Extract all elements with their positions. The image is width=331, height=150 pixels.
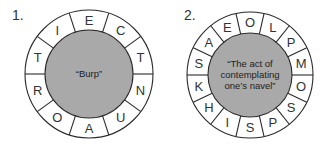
ring-letter: E xyxy=(85,13,94,28)
ring-letter: A xyxy=(85,121,94,136)
ring-letter: K xyxy=(194,79,203,94)
ring-letter: P xyxy=(287,35,296,50)
ring-letter: T xyxy=(136,50,144,65)
ring-letter: R xyxy=(33,83,42,98)
ring-letter: T xyxy=(34,50,42,65)
clue-text: “Burp” xyxy=(76,68,102,79)
puzzle-rings: ECTNUAORTI“Burp”OLPMOSPSIHKSAE“The act o… xyxy=(0,0,331,150)
ring-letter: M xyxy=(296,56,307,71)
ring-letter: O xyxy=(245,15,255,30)
ring-letter: O xyxy=(296,79,306,94)
ring-letter: N xyxy=(136,83,145,98)
clue-text: “The act of xyxy=(227,58,273,69)
ring-letter: I xyxy=(225,115,229,130)
ring-letter: P xyxy=(268,115,277,130)
puzzle-2: OLPMOSPSIHKSAE“The act ofcontemplatingon… xyxy=(187,12,313,138)
ring-letter: I xyxy=(55,23,59,38)
clue-text: contemplating xyxy=(220,69,279,80)
ring-letter: H xyxy=(204,100,213,115)
ring-letter: O xyxy=(52,110,62,125)
ring-letter: U xyxy=(116,110,125,125)
ring-letter: S xyxy=(194,56,203,71)
ring-letter: C xyxy=(116,23,125,38)
ring-letter: E xyxy=(223,20,232,35)
clue-text: one’s navel” xyxy=(224,80,275,91)
ring-letter: A xyxy=(205,35,214,50)
ring-letter: L xyxy=(269,20,276,35)
word-ring-puzzles: 1. 2. ECTNUAORTI“Burp”OLPMOSPSIHKSAE“The… xyxy=(0,0,331,150)
puzzle-1: ECTNUAORTI“Burp” xyxy=(25,10,153,138)
ring-letter: S xyxy=(287,100,296,115)
ring-letter: S xyxy=(246,120,255,135)
